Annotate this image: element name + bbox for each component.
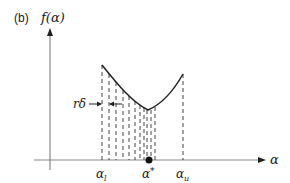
x-axis-label: α [270,152,279,167]
x-tick-labels: αl α* αu [96,166,189,183]
arrow-left-icon [109,102,114,107]
function-curve [102,65,183,110]
spacing-annotation: rδ [73,97,122,111]
y-axis [47,28,53,170]
spacing-label: rδ [73,97,86,111]
arrow-right-icon [97,102,102,107]
y-axis-label: f(α) [40,10,65,25]
tick-alpha-l: αl [96,167,107,183]
x-axis-arrow-icon [258,157,266,163]
tick-alpha-star: α* [142,166,155,181]
y-axis-arrow-icon [47,28,53,36]
minimizer-dot [146,157,153,164]
diagram-canvas: (b) f(α) α rδ αl [0,0,290,183]
panel-label: (b) [14,11,29,25]
tick-alpha-u: αu [176,167,189,183]
